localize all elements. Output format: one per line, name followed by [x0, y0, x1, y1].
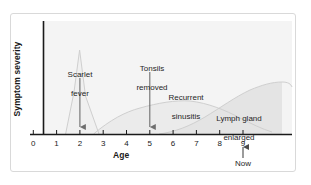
annotation-scarlet-fever: Scarlet fever — [54, 60, 106, 98]
annotation-sinusitis-line1: Recurrent — [168, 93, 203, 102]
annotation-lymph-line1: Lymph gland — [216, 114, 262, 123]
annotation-sinusitis-line2: sinusitis — [172, 112, 200, 121]
annotation-scarlet-fever-line1: Scarlet — [68, 70, 93, 79]
x-tick-label-3: 3 — [97, 139, 109, 148]
annotation-lymph-gland-enlarged: Lymph gland enlarged — [201, 104, 277, 142]
annotation-now: Now — [225, 159, 261, 169]
annotation-lymph-line2: enlarged — [223, 133, 254, 142]
x-axis-title: Age — [113, 150, 129, 160]
x-tick-label-4: 4 — [121, 139, 133, 148]
x-tick-label-1: 1 — [51, 139, 63, 148]
timeline-symptom-chart: Symptom severity Age 0 1 2 3 4 5 6 7 8 9… — [0, 0, 311, 185]
x-tick-label-2: 2 — [74, 139, 86, 148]
x-tick-label-5: 5 — [144, 139, 156, 148]
annotation-scarlet-fever-line2: fever — [71, 89, 89, 98]
x-tick-label-6: 6 — [167, 139, 179, 148]
annotation-tonsils-line1: Tonsils — [140, 64, 164, 73]
x-tick-label-0: 0 — [27, 139, 39, 148]
y-axis-title: Symptom severity — [12, 29, 22, 129]
